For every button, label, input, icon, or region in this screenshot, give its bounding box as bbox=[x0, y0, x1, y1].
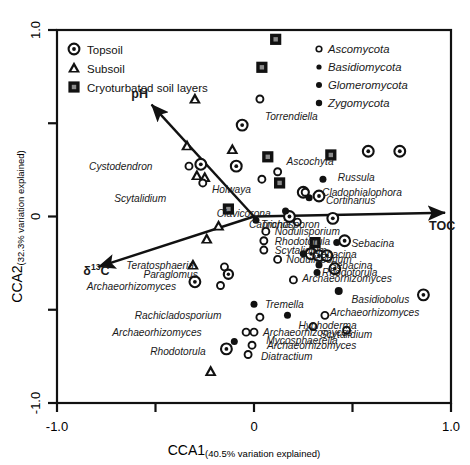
taxon-marker-ascomycota bbox=[321, 312, 328, 319]
taxon-label: Rachicladosporium bbox=[135, 310, 222, 321]
x-tick-label: 1.0 bbox=[442, 419, 460, 434]
marker-subsoil bbox=[205, 365, 217, 376]
taxon-marker-ascomycota bbox=[256, 314, 263, 321]
taxon-label: Cortinarius bbox=[326, 195, 375, 206]
taxon-marker-basidiomycota bbox=[333, 239, 340, 246]
marker-cryoturbated bbox=[270, 34, 281, 45]
taxon-label: Scytalidium bbox=[114, 193, 167, 204]
chart-canvas: -1.001.01.00-1.0 pHTOCδ13C TorrendiellaA… bbox=[0, 0, 470, 465]
taxon-label: Archaeorhizomyces bbox=[111, 327, 201, 338]
marker-topsoil bbox=[363, 146, 374, 157]
legend-item-glomeromycota: Glomeromycota bbox=[328, 79, 408, 91]
taxon-marker-basidiomycota bbox=[251, 301, 258, 308]
marker-subsoil bbox=[213, 220, 225, 231]
taxon-label: Paraglomus bbox=[143, 269, 197, 280]
taxon-marker-basidiomycota bbox=[282, 207, 289, 214]
marker-cryoturbated bbox=[262, 151, 273, 162]
taxon-label: Clavicorona bbox=[217, 208, 271, 219]
taxon-marker-zygomycota bbox=[335, 287, 343, 295]
taxon-marker-ascomycota bbox=[256, 96, 263, 103]
x-tick-label: 0 bbox=[250, 419, 257, 434]
marker-cryoturbated bbox=[68, 81, 79, 92]
taxon-marker-ascomycota bbox=[245, 351, 252, 358]
legend-dot-mid bbox=[316, 82, 322, 88]
marker-topsoil bbox=[69, 44, 80, 55]
legend-item-subsoil: Subsoil bbox=[87, 63, 125, 75]
taxon-marker-glomeromycota bbox=[224, 270, 233, 279]
marker-subsoil bbox=[189, 93, 201, 104]
legend-dot-open bbox=[316, 46, 322, 52]
marker-topsoil bbox=[394, 146, 405, 157]
taxon-label: Tremella bbox=[265, 299, 304, 310]
y-tick-label: 0 bbox=[28, 213, 43, 220]
taxon-marker-ascomycota bbox=[185, 163, 192, 170]
y-tick-label: -1.0 bbox=[28, 392, 43, 414]
taxon-marker-basidiomycota bbox=[319, 176, 326, 183]
taxon-marker-basidiomycota bbox=[306, 194, 313, 201]
marker-cryoturbated bbox=[256, 62, 267, 73]
taxon-label: Cystodendron bbox=[89, 161, 153, 172]
marker-topsoil bbox=[231, 161, 242, 172]
vector-TOC bbox=[254, 213, 445, 217]
legend-item-topsoil: Topsoil bbox=[87, 44, 123, 56]
taxon-marker-ascomycota bbox=[260, 247, 267, 254]
x-axis-label: CCA1(40.5% variation explained) bbox=[168, 442, 320, 459]
taxon-label: Archaeorhizomyces bbox=[329, 307, 419, 318]
y-axis-label: CCA2(32.3% variation explained) bbox=[9, 150, 26, 302]
taxon-label: Sebacina bbox=[352, 238, 395, 249]
taxon-label: Basidiobolus bbox=[352, 294, 410, 305]
taxon-marker-ascomycota bbox=[251, 329, 258, 336]
legend-item-cryoturbated-soil-layers: Cryoturbated soil layers bbox=[87, 82, 208, 94]
marker-topsoil bbox=[237, 120, 248, 131]
legend-item-ascomycota: Ascomycota bbox=[327, 43, 390, 55]
cca-ordination-plot: -1.001.01.00-1.0 pHTOCδ13C TorrendiellaA… bbox=[0, 0, 470, 465]
taxon-label: Archaeorhizomyces bbox=[266, 340, 356, 351]
taxon-label: Sebacina bbox=[314, 249, 357, 260]
marker-topsoil bbox=[327, 213, 338, 224]
taxon-label: Rhodotorula bbox=[150, 346, 206, 357]
taxon-label: Diatractium bbox=[261, 351, 313, 362]
y-tick-label: 1.0 bbox=[28, 21, 43, 39]
legend-item-basidiomycota: Basidiomycota bbox=[328, 61, 401, 73]
taxon-marker-ascomycota bbox=[258, 176, 265, 183]
marker-subsoil bbox=[181, 139, 193, 150]
legends: TopsoilSubsoilCryoturbated soil layersAs… bbox=[68, 43, 408, 109]
marker-topsoil bbox=[195, 159, 206, 170]
taxon-marker-basidiomycota bbox=[231, 338, 238, 345]
taxon-marker-basidiomycota bbox=[284, 312, 291, 319]
taxon-marker-ascomycota bbox=[217, 282, 224, 289]
legend-dot-large bbox=[316, 100, 322, 106]
taxon-marker-ascomycota bbox=[199, 179, 206, 186]
marker-topsoil bbox=[339, 235, 350, 246]
vector-label-d13c: δ13C bbox=[83, 262, 109, 278]
taxon-label: Holwaya bbox=[212, 184, 251, 195]
vector-label-toc: TOC bbox=[429, 219, 455, 233]
taxon-marker-ascomycota bbox=[274, 256, 281, 263]
legend-dot-small bbox=[316, 64, 321, 69]
taxon-marker-ascomycota bbox=[290, 276, 297, 283]
marker-topsoil bbox=[418, 289, 429, 300]
taxon-label: Archaeorhizomyces bbox=[301, 273, 391, 284]
taxon-label: Torrendiella bbox=[265, 111, 318, 122]
marker-topsoil bbox=[221, 344, 232, 355]
marker-cryoturbated bbox=[274, 177, 285, 188]
taxon-marker-ascomycota bbox=[249, 342, 256, 349]
marker-subsoil bbox=[68, 62, 80, 73]
taxon-label: Ascochyta bbox=[286, 156, 334, 167]
taxon-marker-ascomycota bbox=[274, 168, 281, 175]
taxon-label: Archaeorhizomyces bbox=[86, 281, 176, 292]
marker-subsoil bbox=[226, 143, 238, 154]
taxon-marker-ascomycota bbox=[243, 329, 250, 336]
taxon-label: Russula bbox=[338, 172, 375, 183]
x-tick-label: -1.0 bbox=[46, 419, 68, 434]
taxon-marker-ascomycota bbox=[260, 237, 267, 244]
legend-item-zygomycota: Zygomycota bbox=[327, 97, 390, 109]
